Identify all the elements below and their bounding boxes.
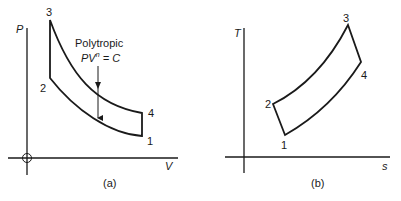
point-label-1: 1 — [281, 139, 287, 151]
arrow-mid-head — [95, 82, 101, 89]
polytropic-equation: PVn = C — [81, 51, 120, 64]
ts-cycle-path — [273, 25, 361, 135]
pv-diagram: P V 3 2 4 1 Polytropic PVn = C (a) — [8, 6, 178, 189]
s-axis-label: s — [382, 160, 388, 172]
point-label-2: 2 — [40, 82, 46, 94]
point-label-4: 4 — [148, 107, 154, 119]
point-label-4: 4 — [361, 69, 367, 81]
cycle-diagrams: P V 3 2 4 1 Polytropic PVn = C (a) T s 3… — [0, 0, 401, 201]
p-axis-label: P — [16, 23, 24, 35]
polytropic-label: Polytropic — [75, 37, 124, 49]
point-label-3: 3 — [46, 6, 52, 18]
ts-diagram: T s 3 4 2 1 (b) — [225, 12, 390, 189]
equation-rhs: = C — [100, 52, 121, 64]
point-label-2: 2 — [265, 98, 271, 110]
t-axis-label: T — [234, 27, 242, 39]
point-label-1: 1 — [147, 135, 153, 147]
v-axis-label: V — [165, 160, 174, 172]
caption-a: (a) — [103, 177, 116, 189]
caption-b: (b) — [311, 177, 324, 189]
point-label-3: 3 — [343, 12, 349, 24]
